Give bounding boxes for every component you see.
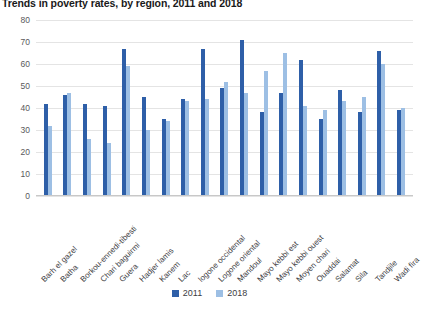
legend-swatch-icon-2011 — [172, 290, 179, 297]
bar-2018[interactable] — [381, 64, 385, 196]
x-axis-tick-label: Sila — [354, 268, 370, 284]
y-axis-tick-30: 30 — [0, 125, 30, 135]
y-axis-tick-40: 40 — [0, 103, 30, 113]
legend-item-2018[interactable]: 2018 — [216, 288, 247, 298]
bar-2018[interactable] — [401, 108, 405, 196]
bar-2018[interactable] — [283, 53, 287, 196]
y-axis-tick-60: 60 — [0, 59, 30, 69]
plot-area — [36, 20, 413, 196]
y-axis-tick-labels: 80706050403020100 — [0, 20, 30, 196]
bar-group — [195, 20, 215, 196]
bar-group — [274, 20, 294, 196]
x-axis-tick-label: Wadi fira — [393, 256, 421, 284]
y-axis-tick-70: 70 — [0, 37, 30, 47]
chart-title: Trends in poverty rates, by region, 2011… — [2, 0, 242, 9]
bar-group — [136, 20, 156, 196]
bar-2018[interactable] — [264, 71, 268, 196]
bar-group — [391, 20, 411, 196]
bar-2018[interactable] — [107, 143, 111, 196]
bar-2018[interactable] — [146, 130, 150, 196]
bar-group — [175, 20, 195, 196]
legend-label-2018: 2018 — [227, 288, 247, 298]
bar-group — [38, 20, 58, 196]
bar-group — [215, 20, 235, 196]
legend-swatch-icon-2018 — [216, 290, 223, 297]
bar-group — [372, 20, 392, 196]
bar-2018[interactable] — [205, 99, 209, 196]
y-axis-tick-0: 0 — [0, 191, 30, 201]
x-axis-tick-labels: Barh el gazelBathaBorkou-ennedi-tibestiC… — [36, 198, 413, 284]
bar-2018[interactable] — [323, 110, 327, 196]
bar-group — [254, 20, 274, 196]
gridline — [36, 196, 413, 197]
bar-2018[interactable] — [87, 139, 91, 196]
legend-label-2011: 2011 — [183, 288, 202, 298]
bar-2018[interactable] — [224, 82, 228, 196]
bar-2018[interactable] — [303, 106, 307, 196]
y-axis-tick-20: 20 — [0, 147, 30, 157]
bar-groups — [36, 20, 413, 196]
bar-group — [352, 20, 372, 196]
bar-group — [156, 20, 176, 196]
chart-legend: 2011 2018 — [0, 288, 419, 298]
bar-group — [97, 20, 117, 196]
x-axis-line — [36, 195, 413, 196]
bar-group — [77, 20, 97, 196]
bar-2018[interactable] — [48, 126, 52, 196]
bar-2018[interactable] — [166, 121, 170, 196]
bar-group — [58, 20, 78, 196]
bar-group — [332, 20, 352, 196]
bar-group — [234, 20, 254, 196]
legend-item-2011[interactable]: 2011 — [172, 288, 202, 298]
bar-group — [293, 20, 313, 196]
y-axis-tick-80: 80 — [0, 15, 30, 25]
bar-2018[interactable] — [67, 93, 71, 196]
bar-2018[interactable] — [342, 101, 346, 196]
bar-2018[interactable] — [244, 93, 248, 196]
bar-group — [117, 20, 137, 196]
bar-group — [313, 20, 333, 196]
x-axis-tick-label: Lac — [177, 269, 192, 284]
y-axis-tick-10: 10 — [0, 169, 30, 179]
bar-2018[interactable] — [126, 66, 130, 196]
bar-2018[interactable] — [362, 97, 366, 196]
bar-2018[interactable] — [185, 101, 189, 196]
y-axis-tick-50: 50 — [0, 81, 30, 91]
